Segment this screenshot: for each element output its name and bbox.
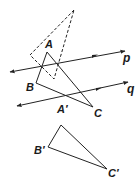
reflection-diagram: A B C A′ B′ C′ p q (0, 0, 138, 177)
label-q: q (127, 82, 135, 96)
label-a: A (44, 38, 53, 50)
label-c: C (94, 107, 103, 119)
triangle-abc (36, 52, 93, 107)
triangle-a-prime-b-prime-c-prime (48, 125, 107, 169)
line-p (10, 51, 125, 72)
label-a-prime: A′ (56, 103, 69, 115)
label-b: B (26, 81, 34, 93)
label-c-prime: C′ (108, 167, 120, 177)
label-p: p (122, 51, 130, 65)
label-b-prime: B′ (34, 144, 46, 156)
